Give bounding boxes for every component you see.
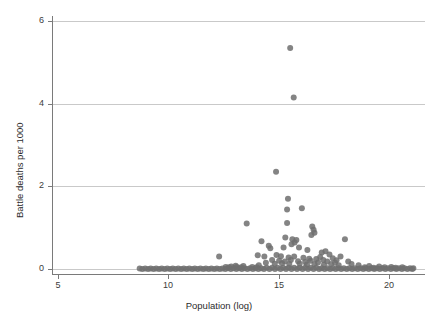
data-point xyxy=(371,265,377,271)
data-point xyxy=(342,236,348,242)
data-point xyxy=(277,266,283,272)
data-point xyxy=(382,264,388,270)
data-point xyxy=(282,235,288,241)
data-point xyxy=(261,266,267,272)
data-point xyxy=(327,266,333,272)
data-point xyxy=(291,94,297,100)
data-point xyxy=(409,266,415,272)
y-tick-label: 6 xyxy=(18,15,44,25)
data-points-layer xyxy=(0,0,438,325)
data-point xyxy=(284,220,290,226)
scatter-plot-figure: 5101520 0246 Population (log) Battle dea… xyxy=(0,0,438,325)
data-point xyxy=(178,266,184,272)
data-point xyxy=(296,245,302,251)
data-point xyxy=(217,266,223,272)
data-point xyxy=(267,245,273,251)
data-point xyxy=(289,241,295,247)
data-point xyxy=(333,266,339,272)
data-point xyxy=(322,266,328,272)
data-point xyxy=(338,266,344,272)
data-point xyxy=(145,266,151,272)
data-point xyxy=(294,266,300,272)
data-point xyxy=(238,264,244,270)
data-point xyxy=(311,266,317,272)
data-point xyxy=(195,266,201,272)
data-point xyxy=(139,266,145,272)
data-point xyxy=(299,205,305,211)
plot-area: 5101520 0246 Population (log) Battle dea… xyxy=(0,0,438,325)
data-point xyxy=(304,247,310,253)
data-point xyxy=(283,266,289,272)
data-point xyxy=(244,221,250,227)
data-point xyxy=(272,266,278,272)
data-point xyxy=(338,254,344,260)
data-point xyxy=(255,252,261,258)
data-point xyxy=(258,238,264,244)
data-point xyxy=(316,266,322,272)
data-point xyxy=(200,266,206,272)
data-point xyxy=(254,264,260,270)
x-tick-label: 10 xyxy=(153,280,183,290)
data-point xyxy=(216,254,222,260)
x-tick-label: 5 xyxy=(43,280,73,290)
data-point xyxy=(189,266,195,272)
data-point xyxy=(349,266,355,272)
data-point xyxy=(226,264,232,270)
y-tick-label: 4 xyxy=(18,98,44,108)
x-tick-label: 15 xyxy=(264,280,294,290)
data-point xyxy=(287,45,293,51)
data-point xyxy=(300,266,306,272)
data-point xyxy=(211,266,217,272)
data-point xyxy=(173,266,179,272)
data-point xyxy=(308,232,314,238)
y-tick-label: 0 xyxy=(18,263,44,273)
data-point xyxy=(261,254,267,260)
data-point xyxy=(355,266,361,272)
data-point xyxy=(281,245,287,251)
y-axis-title: Battle deaths per 1000 xyxy=(14,122,25,218)
data-point xyxy=(162,266,168,272)
data-point xyxy=(156,266,162,272)
data-point xyxy=(289,266,295,272)
data-point xyxy=(393,265,399,271)
data-point xyxy=(362,264,368,270)
data-point xyxy=(184,266,190,272)
x-tick-label: 20 xyxy=(374,280,404,290)
data-point xyxy=(266,266,272,272)
data-point xyxy=(285,196,291,202)
data-point xyxy=(206,266,212,272)
data-point xyxy=(399,264,405,270)
data-point xyxy=(284,206,290,212)
data-point xyxy=(151,266,157,272)
data-point xyxy=(305,266,311,272)
data-point xyxy=(273,169,279,175)
data-point xyxy=(167,266,173,272)
data-point xyxy=(344,266,350,272)
x-axis-title: Population (log) xyxy=(0,300,438,311)
